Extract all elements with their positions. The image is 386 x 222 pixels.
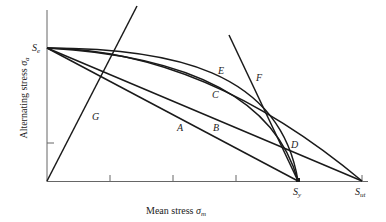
label-f: F (255, 72, 263, 83)
label-c: C (212, 89, 219, 100)
line-f (229, 35, 298, 181)
label-e: E (217, 65, 224, 76)
label-sut: Sut (355, 186, 367, 199)
label-d: D (290, 139, 299, 150)
label-se: Se (32, 42, 40, 55)
fatigue-diagram: Se Sy Sut A B C D E F G Mean stress σm A… (0, 0, 386, 222)
label-sy: Sy (293, 186, 302, 199)
sy-marker (296, 178, 300, 182)
label-b: B (213, 122, 219, 133)
y-axis-label: Alternating stress σa (18, 57, 31, 139)
label-a: A (176, 122, 184, 133)
line-g (47, 6, 137, 181)
x-axis-label: Mean stress σm (146, 205, 206, 218)
label-g: G (92, 111, 99, 122)
